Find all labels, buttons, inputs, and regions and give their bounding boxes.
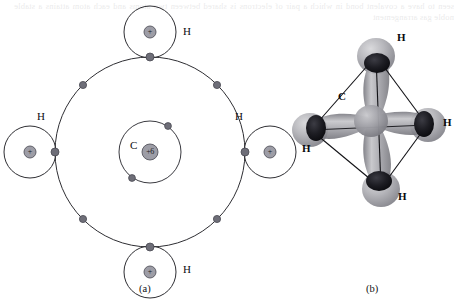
figure-root: seen to have a covalent bond in which a …	[0, 0, 468, 306]
hydrogen-label-left-panel-b: H	[302, 142, 311, 154]
hydrogen-label-bottom-panel-b: H	[398, 190, 407, 202]
bond-cap-bottom	[366, 171, 392, 191]
bond-cap-top	[364, 53, 390, 73]
bond-cap-left	[306, 115, 326, 141]
caption-panel-a: (a)	[139, 283, 151, 294]
hydrogen-label-top-panel-b: H	[397, 31, 406, 43]
caption-panel-b: (b)	[366, 283, 378, 294]
bond-cap-right	[414, 111, 434, 137]
panel-b-tetrahedral-model	[0, 0, 468, 306]
carbon-sphere	[354, 105, 388, 137]
hydrogen-label-right-panel-b: H	[443, 116, 452, 128]
carbon-label-panel-b: C	[338, 90, 346, 102]
